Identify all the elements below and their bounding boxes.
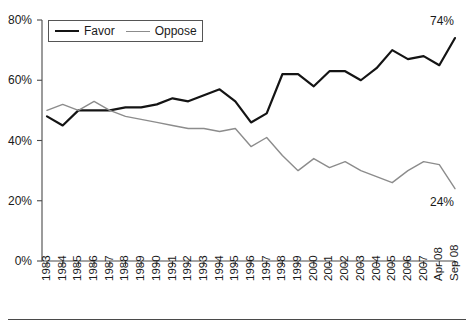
x-axis-tick-label: 1998	[276, 255, 287, 281]
y-axis-tick-label: 20%	[0, 195, 32, 207]
x-axis-tick-label: 1988	[119, 255, 130, 281]
x-axis-tick-label: 2003	[355, 255, 366, 281]
series-line-oppose	[47, 101, 455, 188]
legend-entry-favor: Favor	[55, 24, 115, 38]
x-axis-tick-label: Sep 08	[449, 245, 460, 281]
x-axis-tick-label: Apr 08	[433, 247, 444, 281]
x-axis-tick-label: 1992	[182, 255, 193, 281]
x-axis-tick-label: 2002	[339, 255, 350, 281]
y-axis-tick-label: 80%	[0, 14, 32, 26]
x-axis-tick-label: 1995	[229, 255, 240, 281]
x-axis-tick-label: 1989	[135, 255, 146, 281]
x-axis-tick-label: 1999	[292, 255, 303, 281]
chart-legend: Favor Oppose	[48, 20, 203, 42]
x-axis-tick-label: 1996	[245, 255, 256, 281]
legend-label-oppose: Oppose	[155, 24, 197, 38]
legend-swatch-oppose	[126, 31, 150, 32]
x-axis-tick-label: 1986	[88, 255, 99, 281]
x-axis-tick-label: 1984	[57, 255, 68, 281]
series-line-favor	[47, 38, 455, 125]
legend-label-favor: Favor	[84, 24, 115, 38]
legend-swatch-favor	[55, 30, 79, 32]
y-axis-tick-label: 60%	[0, 74, 32, 86]
x-axis-tick-label: 1987	[104, 255, 115, 281]
x-axis-tick-label: 1991	[167, 255, 178, 281]
x-axis-tick-label: 2007	[418, 255, 429, 281]
x-axis-tick-label: 1993	[198, 255, 209, 281]
x-axis-tick-label: 1994	[214, 255, 225, 281]
footer-divider	[8, 319, 466, 320]
x-axis-tick-label: 2005	[386, 255, 397, 281]
x-axis-tick-label: 1990	[151, 255, 162, 281]
x-axis-tick-label: 1985	[72, 255, 83, 281]
x-axis-tick-label: 2004	[371, 255, 382, 281]
y-axis-tick-label: 0%	[0, 255, 32, 267]
x-axis-tick-label: 1983	[41, 255, 52, 281]
y-axis-tick-label: 40%	[0, 135, 32, 147]
oppose-endpoint-label: 24%	[430, 195, 454, 209]
x-axis-tick-label: 1997	[261, 255, 272, 281]
axis-spine	[42, 20, 455, 261]
line-chart: Favor Oppose 74% 24% 0%20%40%60%80% 1983…	[0, 0, 474, 328]
x-axis-tick-label: 2001	[323, 255, 334, 281]
favor-endpoint-label: 74%	[430, 14, 454, 28]
x-axis-tick-label: 2000	[308, 255, 319, 281]
x-axis-tick-label: 2006	[402, 255, 413, 281]
legend-entry-oppose: Oppose	[126, 24, 197, 38]
